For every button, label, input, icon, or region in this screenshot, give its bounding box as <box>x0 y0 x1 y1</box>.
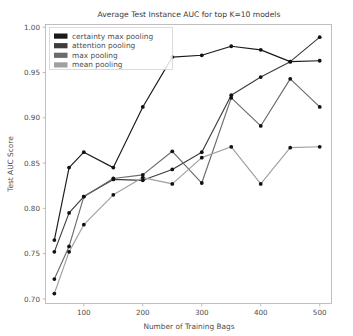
series-0 <box>52 44 321 242</box>
data-point <box>288 77 292 81</box>
data-point <box>200 181 204 185</box>
data-point <box>318 145 322 149</box>
data-point <box>170 168 174 172</box>
series-2 <box>52 77 321 281</box>
data-point <box>229 96 233 100</box>
data-point <box>52 250 56 254</box>
x-tick-label: 200 <box>136 308 150 317</box>
data-point <box>170 182 174 186</box>
data-point <box>82 195 86 199</box>
data-point <box>111 166 115 170</box>
series-line <box>54 46 319 240</box>
data-point <box>259 124 263 128</box>
y-tick-label: 0.80 <box>24 204 40 213</box>
y-tick-label: 0.85 <box>24 159 40 168</box>
x-tick-label: 400 <box>254 308 268 317</box>
data-point <box>111 177 115 181</box>
data-point <box>111 193 115 197</box>
x-axis-label: Number of Training Bags <box>143 322 234 331</box>
data-point <box>229 145 233 149</box>
data-point <box>52 238 56 242</box>
chart-legend[interactable]: certainty max poolingattention poolingma… <box>50 28 173 70</box>
data-point <box>170 149 174 153</box>
data-point <box>67 211 71 215</box>
data-point <box>229 44 233 48</box>
data-point <box>82 223 86 227</box>
legend-label-0: certainty max pooling <box>72 32 153 41</box>
legend-label-3: mean pooling <box>72 60 123 69</box>
y-tick-group: 0.700.750.800.850.900.951.00 <box>24 23 46 304</box>
x-axis-label-group: Number of Training Bags <box>143 322 234 331</box>
data-point <box>52 277 56 281</box>
x-tick-label: 300 <box>195 308 209 317</box>
chart-canvas: Average Test Instance AUC for top K=10 m… <box>0 0 353 336</box>
y-tick-label: 0.95 <box>24 68 40 77</box>
chart-figure: Average Test Instance AUC for top K=10 m… <box>0 0 353 336</box>
legend-swatch-1 <box>54 43 68 48</box>
data-point <box>259 182 263 186</box>
data-point <box>67 250 71 254</box>
chart-title: Average Test Instance AUC for top K=10 m… <box>98 10 281 19</box>
data-point <box>67 245 71 249</box>
data-point <box>141 176 145 180</box>
x-tick-group: 100200300400500 <box>77 304 327 317</box>
legend-swatch-0 <box>54 34 68 39</box>
data-point <box>318 35 322 39</box>
data-point <box>52 292 56 296</box>
y-tick-label: 0.75 <box>24 249 40 258</box>
legend-label-2: max pooling <box>72 51 118 60</box>
data-point <box>318 59 322 63</box>
data-point <box>141 105 145 109</box>
y-axis-label: Test AUC Score <box>6 136 15 193</box>
chart-title-group: Average Test Instance AUC for top K=10 m… <box>98 10 281 19</box>
y-axis-label-group: Test AUC Score <box>6 136 15 193</box>
data-point <box>200 53 204 57</box>
series-line <box>54 79 319 279</box>
data-point <box>200 150 204 154</box>
data-point <box>200 156 204 160</box>
data-point <box>82 150 86 154</box>
data-point <box>67 166 71 170</box>
x-tick-label: 500 <box>313 308 327 317</box>
data-point <box>288 146 292 150</box>
y-tick-label: 1.00 <box>24 23 40 32</box>
legend-swatch-3 <box>54 62 68 67</box>
legend-label-1: attention pooling <box>72 41 136 50</box>
series-line <box>54 147 319 294</box>
data-point <box>288 60 292 64</box>
data-point <box>318 105 322 109</box>
x-tick-label: 100 <box>77 308 91 317</box>
data-point <box>259 48 263 52</box>
data-series-group <box>52 35 321 295</box>
legend-swatch-2 <box>54 53 68 58</box>
data-point <box>259 75 263 79</box>
y-tick-label: 0.70 <box>24 295 40 304</box>
y-tick-label: 0.90 <box>24 113 40 122</box>
